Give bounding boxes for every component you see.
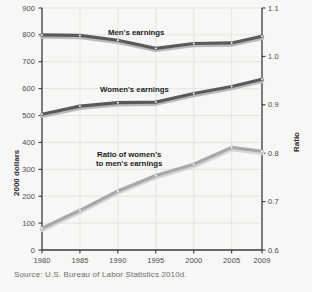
x-axis-tick: 1985 [63,256,97,265]
x-axis-tick: 1995 [139,256,173,265]
series-label-womens-earnings: Women's earnings [100,85,169,94]
data-point [231,146,233,148]
y-axis-left-tick: 0 [9,246,35,255]
data-point [193,93,195,95]
data-point [155,101,157,103]
y-axis-left-tick: 100 [9,219,35,228]
data-point [155,47,157,49]
data-point [231,86,233,88]
data-point [193,43,195,45]
data-point [193,163,195,165]
data-point [261,150,263,152]
x-axis-tick: 2005 [215,256,249,265]
y-axis-right-tick: 0.9 [268,100,292,109]
series-label-ratio-line2: to men's earnings [96,159,162,168]
data-point [79,105,81,107]
y-axis-left-tick: 500 [9,111,35,120]
data-point [79,209,81,211]
y-axis-right-tick: 0.7 [268,197,292,206]
y-axis-right-tick: 1.0 [268,52,292,61]
source-note: Source: U.S. Bureau of Labor Statistics … [14,270,187,279]
x-axis-tick: 2009 [245,256,279,265]
data-point [117,190,119,192]
x-axis-tick: 1980 [25,256,59,265]
data-point [117,102,119,104]
data-point [41,34,43,36]
data-point [261,35,263,37]
chart-figure: 0100200300400500600700800900 0.60.70.80.… [0,0,312,292]
series-label-mens-earnings: Men's earnings [108,28,164,37]
y-axis-right-tick: 0.8 [268,149,292,158]
y-axis-right-title: Ratio [292,132,301,152]
y-axis-left-tick: 700 [9,57,35,66]
y-axis-left-tick: 900 [9,4,35,13]
y-axis-left-tick: 800 [9,30,35,39]
data-point [41,227,43,229]
chart-canvas [0,0,312,292]
data-point [79,34,81,36]
x-axis-tick: 1990 [101,256,135,265]
y-axis-right-tick: 0.6 [268,246,292,255]
data-point [41,113,43,115]
series-label-ratio: Ratio of women's to men's earnings [96,150,162,168]
y-axis-left-tick: 600 [9,84,35,93]
data-point [231,42,233,44]
y-axis-right-tick: 1.1 [268,4,292,13]
data-point [155,175,157,177]
y-axis-left-tick: 400 [9,138,35,147]
data-point [117,39,119,41]
y-axis-left-title: 2000 dollars [12,150,21,196]
x-axis-tick: 2000 [177,256,211,265]
series-lines [41,34,263,230]
series-label-ratio-line1: Ratio of women's [96,150,162,159]
data-point [261,78,263,80]
